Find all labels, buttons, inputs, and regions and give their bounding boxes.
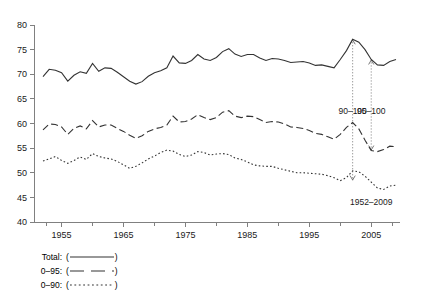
legend-sample-paren-close: ) bbox=[115, 252, 118, 262]
x-axis-tick-label: 1975 bbox=[175, 230, 195, 240]
y-axis-tick-label: 75 bbox=[17, 45, 27, 55]
y-axis-tick-label: 70 bbox=[17, 69, 27, 79]
x-axis-tick-label: 2005 bbox=[361, 230, 381, 240]
legend-line-sample-dotted bbox=[69, 280, 115, 290]
annot-period: 1952–2009 bbox=[350, 197, 393, 207]
legend-item-label: 0–90: bbox=[28, 280, 66, 290]
y-axis-tick-label: 65 bbox=[17, 94, 27, 104]
y-axis-tick-label: 50 bbox=[17, 168, 27, 178]
x-axis-tick-label: 1965 bbox=[113, 230, 133, 240]
legend-line-sample-solid bbox=[69, 252, 115, 262]
legend-item: 0–95:() bbox=[28, 264, 118, 278]
chart-annotations: 90–10095–1001952–2009 bbox=[338, 106, 392, 207]
legend-item-label: 0–95: bbox=[28, 266, 66, 276]
legend-sample-paren-close: ) bbox=[115, 280, 118, 290]
y-axis-tick-label: 80 bbox=[17, 20, 27, 30]
series-line-total bbox=[43, 39, 396, 84]
x-axis-tick-label: 1985 bbox=[237, 230, 257, 240]
legend-sample-paren-close: ) bbox=[115, 266, 118, 276]
legend-item: Total:() bbox=[28, 250, 118, 264]
x-axis-tick-label: 1995 bbox=[299, 230, 319, 240]
chart-container: 404550556065707580 195519651975198519952… bbox=[0, 0, 426, 303]
legend-item-label: Total: bbox=[28, 252, 66, 262]
series-line-0-90 bbox=[43, 150, 396, 189]
legend-item: 0–90:() bbox=[28, 278, 118, 292]
y-axis-tick-label: 60 bbox=[17, 119, 27, 129]
y-axis-tick-label: 45 bbox=[17, 193, 27, 203]
y-axis: 404550556065707580 bbox=[17, 20, 34, 227]
series-line-0-95 bbox=[43, 111, 396, 152]
x-axis: 195519651975198519952005 bbox=[34, 222, 400, 240]
chart-legend: Total:()0–95:()0–90:() bbox=[28, 250, 118, 292]
annot-95-100: 95–100 bbox=[357, 106, 386, 116]
y-axis-tick-label: 40 bbox=[17, 217, 27, 227]
y-axis-tick-label: 55 bbox=[17, 143, 27, 153]
x-axis-tick-label: 1955 bbox=[52, 230, 72, 240]
legend-line-sample-dashed bbox=[69, 266, 115, 276]
